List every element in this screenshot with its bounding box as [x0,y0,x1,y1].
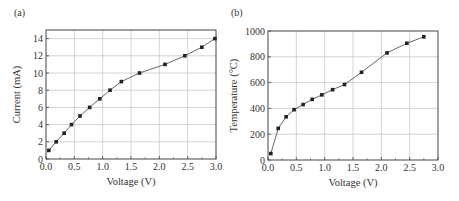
x-tick-label: 1.0 [318,162,331,173]
figure: (a)0.00.51.01.52.02.53.002468101214Volta… [0,0,459,201]
data-point [213,37,217,41]
y-tick-label: 6 [38,102,43,113]
data-point [163,63,167,67]
data-point [331,88,335,92]
x-tick-label: 2.0 [153,161,166,172]
data-point [98,97,102,101]
chart-temperature-vs-voltage: (b)0.00.51.01.52.02.53.00200400600800100… [228,7,444,189]
x-tick-label: 0.5 [68,161,81,172]
data-point [78,114,82,118]
y-tick-label: 0 [260,155,265,166]
data-point [62,131,66,135]
x-axis-label: Voltage (V) [328,177,378,189]
y-tick-label: 10 [33,68,43,79]
data-point [422,35,426,39]
panel-label: (b) [231,7,243,19]
y-tick-label: 400 [250,103,265,114]
data-point [320,93,324,97]
data-point [360,70,364,74]
chart-current-vs-voltage: (a)0.00.51.01.52.02.53.002468101214Volta… [11,7,222,188]
x-tick-label: 3.0 [432,162,445,173]
data-point [292,108,296,112]
data-point [88,106,92,110]
y-tick-label: 8 [38,85,43,96]
y-tick-label: 600 [250,77,265,88]
y-tick-label: 12 [33,50,43,61]
data-point [284,115,288,119]
x-axis-label: Voltage (V) [106,176,156,188]
y-axis-ticks: 02468101214 [33,33,49,164]
data-point [269,152,273,156]
data-point [70,123,74,127]
x-tick-label: 0.5 [290,162,303,173]
series-line [49,39,215,151]
x-axis-ticks: 0.00.51.01.52.02.53.0 [262,157,445,173]
data-point [301,103,305,107]
data-point [54,140,58,144]
data-point [47,149,51,153]
x-tick-label: 1.5 [125,161,138,172]
data-point [183,54,187,58]
x-tick-label: 1.5 [347,162,360,173]
data-point [200,45,204,49]
grid [46,30,216,159]
data-series [269,35,426,155]
y-axis-ticks: 02004006008001000 [245,26,271,166]
x-tick-label: 2.5 [403,162,416,173]
data-point [120,80,124,84]
data-point [108,88,112,92]
y-tick-label: 0 [38,154,43,165]
y-tick-label: 14 [33,33,43,44]
y-axis-label: Current (mA) [11,65,23,123]
y-tick-label: 200 [250,129,265,140]
x-axis-ticks: 0.00.51.01.52.02.53.0 [40,156,223,172]
grid [268,31,438,160]
data-point [276,127,280,131]
data-point [343,83,347,87]
data-series [47,37,217,152]
data-point [405,41,409,45]
data-point [310,98,314,102]
data-point [138,71,142,75]
series-line [271,37,424,154]
x-tick-label: 1.0 [96,161,109,172]
x-tick-label: 3.0 [210,161,223,172]
y-tick-label: 800 [250,51,265,62]
x-tick-label: 2.5 [181,161,194,172]
y-tick-label: 1000 [245,26,265,37]
panel-label: (a) [14,7,25,19]
x-tick-label: 2.0 [375,162,388,173]
data-point [385,51,389,55]
y-tick-label: 4 [38,119,43,130]
y-axis-label: Temperature (°C) [228,58,240,132]
y-tick-label: 2 [38,136,43,147]
